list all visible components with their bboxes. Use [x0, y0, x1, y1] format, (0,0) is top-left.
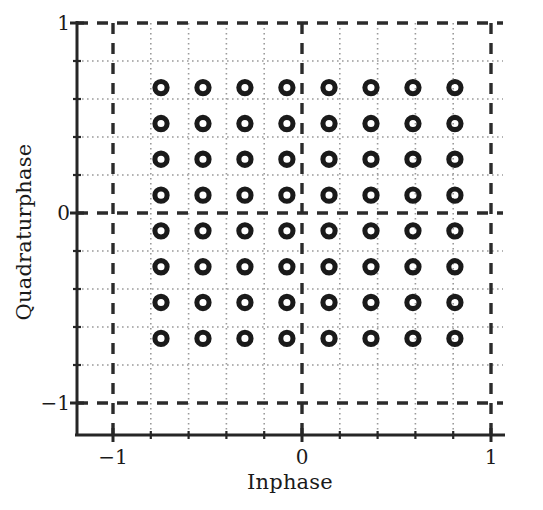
constellation-point — [449, 117, 461, 129]
y-tick-label: 1 — [30, 13, 70, 33]
constellation-point — [197, 82, 209, 94]
constellation-point — [365, 153, 377, 165]
constellation-point — [449, 225, 461, 237]
constellation-point — [155, 261, 167, 273]
constellation-point — [449, 296, 461, 308]
constellation-point — [155, 332, 167, 344]
constellation-point — [323, 261, 335, 273]
plot-area — [0, 0, 543, 510]
constellation-point — [239, 261, 251, 273]
constellation-point — [197, 261, 209, 273]
constellation-point — [155, 225, 167, 237]
constellation-point — [197, 296, 209, 308]
constellation-point — [407, 117, 419, 129]
constellation-point — [323, 82, 335, 94]
constellation-point — [449, 332, 461, 344]
constellation-point — [281, 117, 293, 129]
constellation-point — [407, 332, 419, 344]
constellation-point — [281, 153, 293, 165]
constellation-point — [365, 332, 377, 344]
constellation-point — [155, 82, 167, 94]
constellation-point — [281, 296, 293, 308]
constellation-point — [281, 189, 293, 201]
x-axis-label: Inphase — [77, 470, 503, 494]
constellation-point — [197, 117, 209, 129]
constellation-point — [323, 225, 335, 237]
constellation-point — [365, 296, 377, 308]
constellation-point — [365, 225, 377, 237]
constellation-point — [323, 117, 335, 129]
constellation-point — [155, 296, 167, 308]
constellation-point — [365, 117, 377, 129]
constellation-point — [239, 189, 251, 201]
constellation-point — [239, 296, 251, 308]
y-tick-labels: −101 — [20, 0, 70, 510]
y-tick-label: −1 — [30, 393, 70, 413]
constellation-point — [407, 296, 419, 308]
constellation-point — [239, 153, 251, 165]
constellation-point — [323, 296, 335, 308]
constellation-point — [323, 332, 335, 344]
constellation-point — [155, 117, 167, 129]
x-tick-label: −1 — [83, 447, 143, 467]
constellation-point — [197, 153, 209, 165]
x-tick-label: 0 — [272, 447, 332, 467]
constellation-point — [407, 82, 419, 94]
constellation-point — [197, 189, 209, 201]
constellation-point — [449, 153, 461, 165]
constellation-point — [365, 261, 377, 273]
constellation-figure: Quadraturphase −101 −101 Inphase — [0, 0, 543, 510]
constellation-point — [281, 225, 293, 237]
constellation-point — [281, 261, 293, 273]
constellation-point — [407, 225, 419, 237]
constellation-point — [281, 332, 293, 344]
constellation-point — [155, 153, 167, 165]
constellation-point — [155, 189, 167, 201]
x-tick-label: 1 — [461, 447, 521, 467]
constellation-point — [239, 117, 251, 129]
constellation-point — [407, 261, 419, 273]
constellation-point — [365, 82, 377, 94]
constellation-point — [323, 189, 335, 201]
constellation-point — [239, 225, 251, 237]
y-tick-label: 0 — [30, 203, 70, 223]
constellation-point — [239, 82, 251, 94]
constellation-point — [449, 189, 461, 201]
constellation-point — [449, 82, 461, 94]
constellation-point — [197, 225, 209, 237]
constellation-point — [407, 153, 419, 165]
constellation-point — [449, 261, 461, 273]
constellation-point — [365, 189, 377, 201]
constellation-point — [239, 332, 251, 344]
constellation-point — [407, 189, 419, 201]
constellation-point — [281, 82, 293, 94]
constellation-point — [323, 153, 335, 165]
constellation-point — [197, 332, 209, 344]
